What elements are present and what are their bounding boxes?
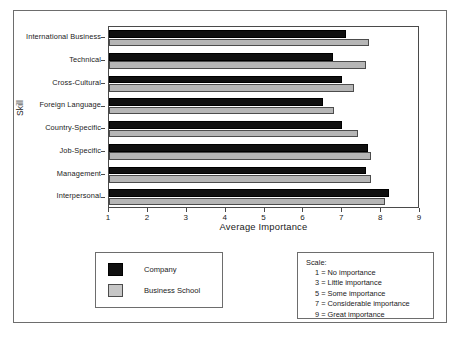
bar-business-school[interactable] [109, 39, 369, 47]
bar-company[interactable] [109, 53, 333, 61]
y-axis-label: Foreign Language [39, 94, 101, 117]
x-axis-tick [419, 208, 420, 212]
bar-group [109, 50, 418, 73]
bar-company[interactable] [109, 76, 342, 84]
plot-area [108, 26, 419, 208]
scale-legend-line: 3 = Little importance [315, 278, 433, 288]
bar-company[interactable] [109, 189, 389, 197]
y-axis-tick [101, 106, 105, 107]
scale-legend-line: 5 = Some importance [315, 289, 433, 299]
bar-business-school[interactable] [109, 198, 385, 206]
x-axis-tick [225, 208, 226, 212]
bar-company[interactable] [109, 144, 368, 152]
bar-groups [109, 27, 418, 207]
bar-group [109, 118, 418, 141]
scale-legend-line: 9 = Great importance [315, 310, 433, 320]
legend: CompanyBusiness School [95, 252, 223, 308]
y-axis-tick [101, 60, 105, 61]
legend-swatch-company [108, 263, 123, 276]
bar-business-school[interactable] [109, 107, 334, 115]
y-axis-tick [101, 174, 105, 175]
figure-panel: Skill International BusinessTechnicalCro… [13, 10, 447, 323]
bar-company[interactable] [109, 98, 323, 106]
x-axis-tick [380, 208, 381, 212]
y-axis-tick [101, 37, 105, 38]
x-axis-tick [341, 208, 342, 212]
bar-group [109, 95, 418, 118]
legend-label: Company [144, 262, 177, 278]
y-axis-label: Job-Specific [60, 140, 101, 163]
y-axis-label: International Business [26, 26, 101, 49]
bar-group [109, 141, 418, 164]
bar-group [109, 164, 418, 187]
bar-business-school[interactable] [109, 130, 358, 138]
bar-business-school[interactable] [109, 152, 371, 160]
scale-legend-line: 1 = No importance [315, 268, 433, 278]
y-axis-label: Country-Specific [45, 117, 101, 140]
x-axis-tick [264, 208, 265, 212]
scale-legend-box: Scale: 1 = No importance3 = Little impor… [297, 252, 434, 319]
legend-label: Business School [144, 283, 200, 299]
scale-legend-title: Scale: [306, 258, 433, 267]
y-axis-tick [101, 128, 105, 129]
x-axis-title: Average Importance [108, 221, 419, 232]
y-axis-tick [101, 83, 105, 84]
bar-business-school[interactable] [109, 175, 371, 183]
bar-company[interactable] [109, 121, 342, 129]
legend-swatch-school [108, 284, 123, 297]
y-axis-label: Interpersonal [57, 185, 101, 208]
bar-company[interactable] [109, 167, 366, 175]
y-axis-tick [101, 197, 105, 198]
y-axis-label: Technical [69, 49, 101, 72]
bar-company[interactable] [109, 30, 346, 38]
bar-business-school[interactable] [109, 61, 366, 69]
x-axis-tick [108, 208, 109, 212]
y-axis-labels: International BusinessTechnicalCross-Cul… [14, 26, 105, 208]
y-axis-label: Management [57, 163, 101, 186]
x-axis-tick [302, 208, 303, 212]
y-axis-label: Cross-Cultural [52, 72, 101, 95]
bar-group [109, 186, 418, 209]
x-axis-tick [186, 208, 187, 212]
y-axis-tick [101, 151, 105, 152]
bar-business-school[interactable] [109, 84, 354, 92]
scale-legend-lines: 1 = No importance3 = Little importance5 … [306, 268, 433, 320]
x-axis-tick [147, 208, 148, 212]
bar-group [109, 27, 418, 50]
bar-group [109, 73, 418, 96]
scale-legend-line: 7 = Considerable importance [315, 299, 433, 309]
